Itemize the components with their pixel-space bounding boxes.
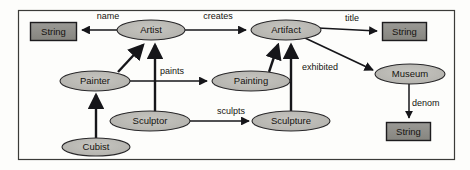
node-label-museum: Museum bbox=[392, 68, 429, 79]
edge-label-name: name bbox=[97, 11, 120, 21]
node-label-sculptor: Sculptor bbox=[133, 115, 168, 126]
edge-label-exhibited: exhibited bbox=[302, 62, 338, 72]
entity-relationship-diagram: String (left) --> name artifact --> crea… bbox=[0, 0, 470, 170]
edge-label-sculpts: sculpts bbox=[217, 106, 246, 116]
node-artifact[interactable]: Artifact bbox=[251, 20, 321, 40]
node-label-painting: Painting bbox=[234, 75, 268, 86]
node-artist[interactable]: Artist bbox=[117, 20, 185, 40]
node-string-title[interactable]: String bbox=[383, 23, 427, 41]
edge-label-creates: creates bbox=[203, 11, 233, 21]
node-string-denom[interactable]: String bbox=[387, 123, 431, 141]
node-label-sculpture: Sculpture bbox=[271, 115, 311, 126]
node-label-string-name: String bbox=[41, 26, 66, 37]
node-label-painter: Painter bbox=[80, 75, 110, 86]
edge-label-denom: denom bbox=[412, 98, 440, 108]
edge-label-paints: paints bbox=[160, 66, 185, 76]
node-label-artist: Artist bbox=[140, 24, 162, 35]
node-museum[interactable]: Museum bbox=[375, 64, 445, 84]
node-painter[interactable]: Painter bbox=[60, 71, 130, 91]
node-string-name[interactable]: String bbox=[31, 23, 77, 41]
node-label-artifact: Artifact bbox=[271, 24, 301, 35]
node-label-string-denom: String bbox=[396, 126, 421, 137]
node-painting[interactable]: Painting bbox=[212, 71, 290, 91]
node-label-string-title: String bbox=[392, 26, 417, 37]
edge-label-title: title bbox=[345, 13, 359, 23]
node-cubist[interactable]: Cubist bbox=[62, 138, 130, 156]
node-sculpture[interactable]: Sculpture bbox=[252, 111, 330, 131]
diagram-canvas: String (left) --> name artifact --> crea… bbox=[0, 0, 470, 170]
node-sculptor[interactable]: Sculptor bbox=[110, 111, 190, 131]
node-label-cubist: Cubist bbox=[83, 141, 110, 152]
